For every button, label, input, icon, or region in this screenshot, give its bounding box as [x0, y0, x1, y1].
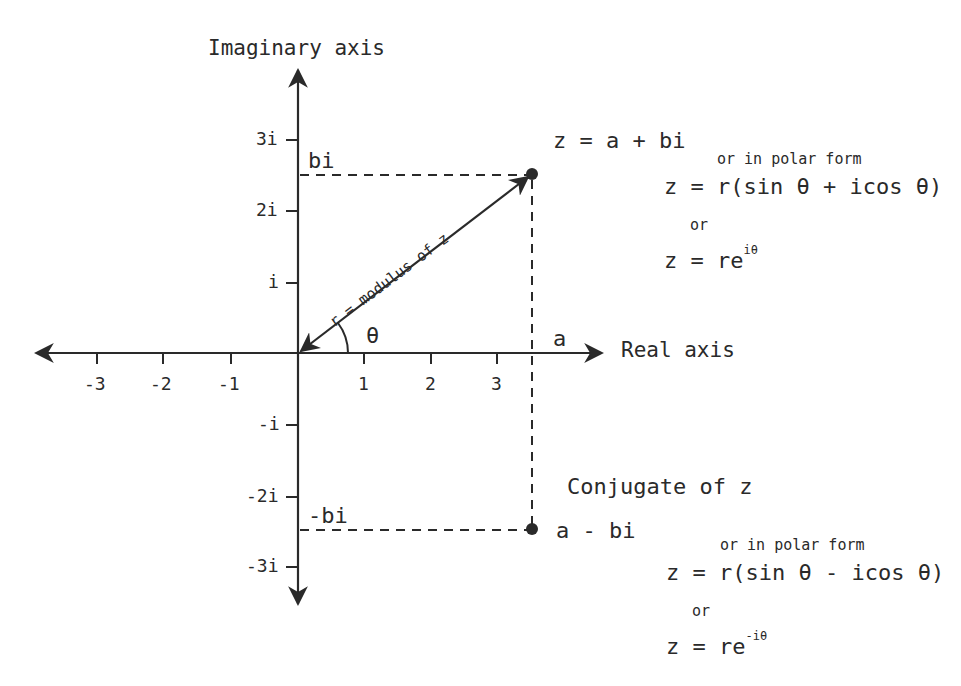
theta-label: θ	[366, 325, 379, 347]
conjugate-exp-form: z = re-iθ	[666, 636, 767, 658]
neg-bi-label: -bi	[308, 505, 348, 527]
y-tick-label: -2i	[246, 487, 279, 505]
y-tick-label: 3i	[256, 130, 278, 148]
bi-label: bi	[308, 150, 335, 172]
point-conjugate	[526, 523, 538, 535]
z-exp-base: z = re	[664, 248, 743, 273]
conjugate-polar-intro: or in polar form	[720, 538, 865, 553]
x-tick-label: 1	[358, 375, 369, 393]
a-label: a	[553, 328, 566, 350]
y-tick-label: i	[268, 273, 279, 291]
real-axis-title: Real axis	[621, 340, 735, 361]
conjugate-label: a - bi	[556, 520, 635, 542]
x-tick-label: -1	[218, 375, 240, 393]
conjugate-polar-form: z = r(sin θ - icos θ)	[666, 562, 944, 584]
z-or-label: or	[690, 218, 708, 233]
imaginary-axis-title: Imaginary axis	[208, 38, 385, 59]
y-tick-label: -3i	[246, 557, 279, 575]
z-polar-form: z = r(sin θ + icos θ)	[664, 176, 942, 198]
x-tick-label: 3	[491, 375, 502, 393]
x-tick-label: -3	[84, 375, 106, 393]
z-polar-intro: or in polar form	[717, 152, 862, 167]
y-tick-label: -i	[258, 415, 280, 433]
conjugate-or-label: or	[692, 604, 710, 619]
z-equation-label: z = a + bi	[553, 130, 685, 152]
x-tick-label: 2	[425, 375, 436, 393]
conjugate-title: Conjugate of z	[567, 476, 752, 498]
z-exp-form: z = reiθ	[664, 250, 758, 272]
conjugate-exp-sup: -iθ	[745, 629, 767, 643]
conjugate-exp-base: z = re	[666, 634, 745, 659]
y-tick-label: 2i	[256, 201, 278, 219]
point-z	[526, 168, 538, 180]
z-exp-sup: iθ	[743, 243, 757, 257]
x-tick-label: -2	[150, 375, 172, 393]
